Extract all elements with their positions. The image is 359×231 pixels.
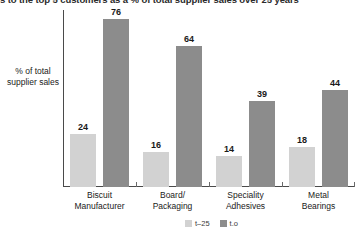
axis-tick (136, 182, 137, 187)
bar-item[interactable]: 76 (103, 7, 129, 187)
bar-value-label: 39 (257, 89, 267, 100)
x-axis-category-label: Metal Bearings (282, 190, 355, 212)
bar-groups: 24 76 16 64 (63, 10, 355, 187)
bar-value-label: 14 (224, 144, 234, 155)
bar-series-0[interactable] (143, 152, 169, 187)
y-axis-label: % of total supplier sales (2, 66, 64, 88)
x-axis-category-label: Board/ Packaging (136, 190, 209, 212)
category-line: Biscuit (63, 190, 136, 201)
bar-group: 24 76 (63, 10, 136, 187)
category-line: Speciality (209, 190, 282, 201)
bar-series-0[interactable] (70, 134, 96, 187)
bar-series-1[interactable] (249, 101, 275, 187)
bar-value-label: 44 (330, 78, 340, 89)
chart-title: s to the top 5 customers as a % of total… (0, 0, 359, 6)
axis-tick (209, 182, 210, 187)
bar-series-1[interactable] (176, 46, 202, 187)
category-line: Board/ (136, 190, 209, 201)
legend-item-series-1[interactable]: t.o (220, 219, 238, 228)
bar-item[interactable]: 39 (249, 89, 275, 187)
bar-group: 14 39 (209, 10, 282, 187)
bar-item[interactable]: 64 (176, 34, 202, 187)
bar-group: 18 44 (282, 10, 355, 187)
legend-swatch-icon (185, 220, 192, 227)
bar-value-label: 16 (151, 140, 161, 151)
bar-item[interactable]: 44 (322, 78, 348, 187)
bar-item[interactable]: 16 (143, 140, 169, 187)
axis-tick (354, 182, 355, 187)
category-line: Adhesives (209, 201, 282, 212)
bar-value-label: 24 (78, 122, 88, 133)
x-axis-category-label: Biscuit Manufacturer (63, 190, 136, 212)
legend-label: t.o (230, 219, 238, 228)
bar-value-label: 64 (184, 34, 194, 45)
bar-series-0[interactable] (216, 156, 242, 187)
bar-value-label: 76 (111, 7, 121, 18)
category-line: Manufacturer (63, 201, 136, 212)
bar-series-0[interactable] (289, 147, 315, 187)
bar-group: 16 64 (136, 10, 209, 187)
category-line: Metal (282, 190, 355, 201)
x-axis-category-labels: Biscuit Manufacturer Board/ Packaging Sp… (63, 190, 355, 212)
bar-series-1[interactable] (103, 19, 129, 187)
axis-tick (282, 182, 283, 187)
chart-legend: t–25 t.o (185, 219, 238, 228)
bar-chart: s to the top 5 customers as a % of total… (0, 0, 359, 231)
bar-series-1[interactable] (322, 90, 348, 187)
plot-area: 24 76 16 64 (63, 10, 355, 187)
bar-item[interactable]: 14 (216, 144, 242, 187)
bar-item[interactable]: 24 (70, 122, 96, 187)
bar-item[interactable]: 18 (289, 135, 315, 187)
bar-value-label: 18 (297, 135, 307, 146)
x-axis-category-label: Speciality Adhesives (209, 190, 282, 212)
legend-item-series-0[interactable]: t–25 (185, 219, 210, 228)
category-line: Bearings (282, 201, 355, 212)
category-line: Packaging (136, 201, 209, 212)
legend-swatch-icon (220, 220, 227, 227)
legend-label: t–25 (195, 219, 210, 228)
